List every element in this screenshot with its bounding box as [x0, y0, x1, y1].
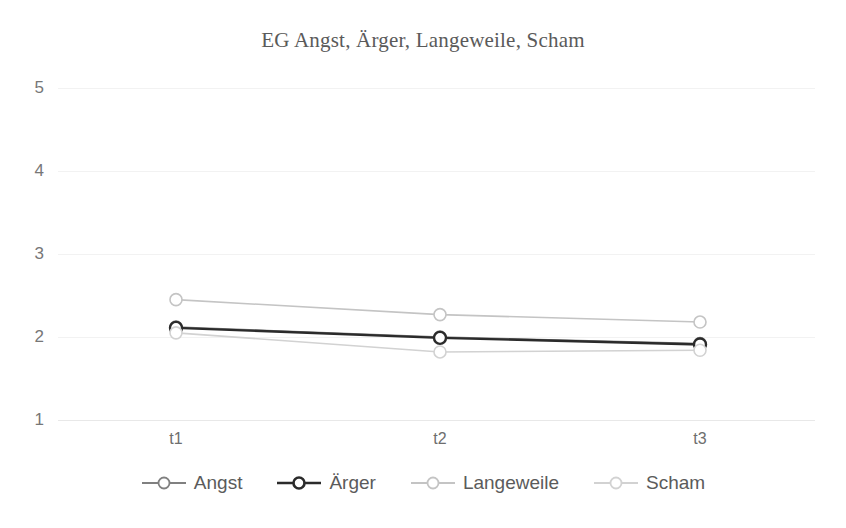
x-tick-label-t2: t2: [400, 430, 480, 448]
y-tick-label-3: 3: [0, 244, 44, 264]
plot-area: [58, 88, 815, 420]
legend-item-ärger[interactable]: Ärger: [276, 472, 375, 494]
legend-marker-icon: [410, 475, 456, 491]
legend-item-langeweile[interactable]: Langeweile: [410, 472, 559, 494]
legend-label: Scham: [646, 472, 705, 494]
gridline-4: [58, 171, 815, 172]
legend-label: Angst: [194, 472, 243, 494]
gridline-5: [58, 88, 815, 89]
legend-item-angst[interactable]: Angst: [141, 472, 243, 494]
chart-legend: AngstÄrgerLangeweileScham: [0, 472, 846, 494]
x-tick-label-t1: t1: [136, 430, 216, 448]
legend-item-scham[interactable]: Scham: [593, 472, 705, 494]
line-chart: EG Angst, Ärger, Langeweile, Scham 5 4 3…: [0, 0, 846, 528]
legend-label: Ärger: [329, 472, 375, 494]
legend-marker-icon: [141, 475, 187, 491]
legend-marker-icon: [276, 475, 322, 491]
y-tick-label-5: 5: [0, 78, 44, 98]
legend-marker-icon: [593, 475, 639, 491]
x-tick-label-t3: t3: [660, 430, 740, 448]
y-tick-label-2: 2: [0, 327, 44, 347]
gridline-3: [58, 254, 815, 255]
y-tick-label-4: 4: [0, 161, 44, 181]
x-axis-line: [58, 420, 815, 421]
gridline-2: [58, 337, 815, 338]
legend-label: Langeweile: [463, 472, 559, 494]
y-tick-label-1: 1: [0, 410, 44, 430]
chart-title: EG Angst, Ärger, Langeweile, Scham: [0, 28, 846, 53]
